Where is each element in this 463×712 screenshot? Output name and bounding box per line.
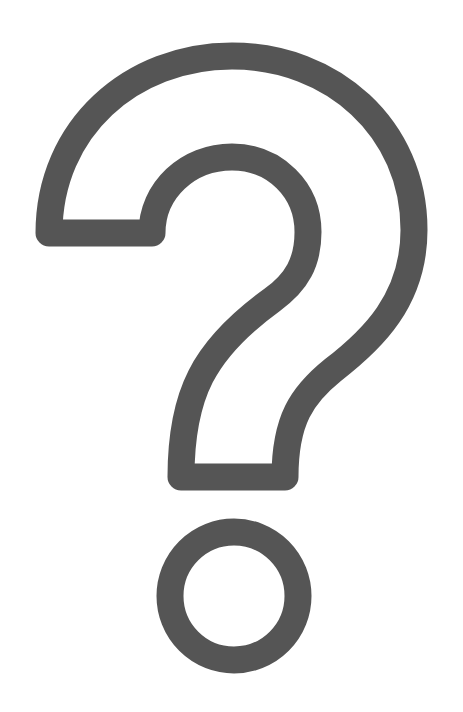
question-mark-graphic: Question mark	[0, 0, 463, 712]
question-mark-hook	[49, 56, 414, 477]
question-mark-dot	[170, 532, 298, 660]
question-mark-outline-icon	[0, 0, 463, 712]
